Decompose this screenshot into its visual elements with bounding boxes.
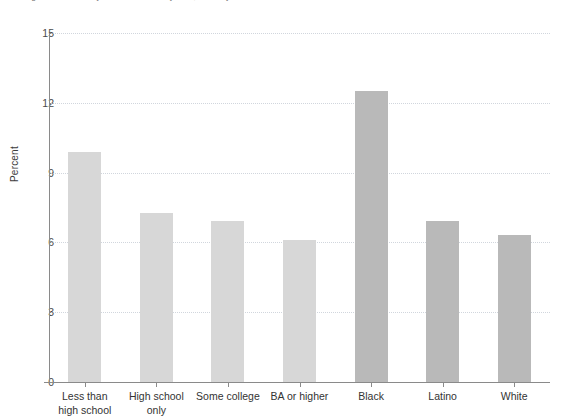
bar	[283, 240, 316, 382]
x-tick-mark	[371, 383, 372, 387]
bar	[355, 91, 388, 382]
x-tick-mark	[300, 383, 301, 387]
x-axis-line	[44, 382, 550, 383]
x-category-label: Less than high school	[49, 390, 121, 417]
x-tick-mark	[228, 383, 229, 387]
bar	[68, 152, 101, 382]
bar-chart: Percent 03691215 Less than high schoolHi…	[0, 0, 566, 420]
x-category-label: High school only	[121, 390, 193, 417]
x-category-label: BA or higher	[264, 390, 336, 404]
x-tick-mark	[156, 383, 157, 387]
plot-area	[49, 33, 550, 382]
bar	[140, 213, 173, 382]
x-category-label: Black	[335, 390, 407, 404]
bar	[426, 221, 459, 382]
gridline	[49, 33, 550, 35]
x-category-label: Latino	[407, 390, 479, 404]
x-category-label: White	[478, 390, 550, 404]
gridline	[49, 173, 550, 175]
y-axis-line	[49, 33, 50, 383]
x-tick-mark	[514, 383, 515, 387]
bar	[211, 221, 244, 382]
gridline	[49, 103, 550, 105]
x-tick-mark	[85, 383, 86, 387]
x-tick-mark	[443, 383, 444, 387]
x-category-label: Some college	[192, 390, 264, 404]
bar	[498, 235, 531, 382]
